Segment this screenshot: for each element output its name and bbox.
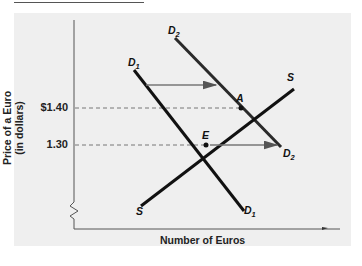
axis-break-icon <box>70 202 78 219</box>
y-tick-130: 1.30 <box>28 138 68 150</box>
demand-curve-d2 <box>175 38 281 147</box>
label-s-bottom: S <box>136 205 143 217</box>
point-a-marker <box>239 106 244 111</box>
y-tick-140: $1.40 <box>28 101 68 113</box>
y-axis <box>70 20 78 229</box>
point-e-marker <box>204 143 209 148</box>
label-d1-bottom: D1 <box>244 204 256 219</box>
x-axis <box>74 227 340 230</box>
label-d2-bottom: D2 <box>283 147 295 162</box>
label-d2-top: D2 <box>168 24 180 39</box>
supply-demand-diagram <box>0 0 362 266</box>
point-e-label: E <box>202 129 209 141</box>
point-a-label: A <box>236 92 244 104</box>
x-axis-label: Number of Euros <box>160 234 245 246</box>
y-axis-label: Price of a Euro (in dollars) <box>6 78 20 178</box>
label-d1-top: D1 <box>128 56 140 71</box>
y-axis-label-line1: Price of a Euro <box>1 91 13 165</box>
label-s-top: S <box>287 71 294 83</box>
y-axis-label-line2: (in dollars) <box>13 91 25 165</box>
